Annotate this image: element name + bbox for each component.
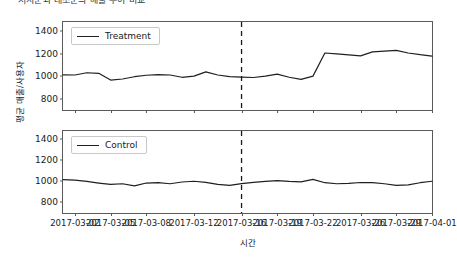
subplot-control: Control 8001000120014002017-03-022017-03… <box>62 130 433 214</box>
legend-line-swatch-treatment <box>77 36 99 37</box>
y-tick-mark <box>60 202 63 203</box>
legend-treatment: Treatment <box>71 27 160 45</box>
x-tick-label: 2017-03-12 <box>169 218 218 228</box>
y-tick-label: 1000 <box>35 176 58 186</box>
x-tick-mark <box>242 213 243 216</box>
y-tick-mark <box>60 31 63 32</box>
y-tick-mark <box>60 139 63 140</box>
data-series-line <box>63 179 432 186</box>
x-tick-mark <box>313 213 314 216</box>
x-tick-mark <box>194 213 195 216</box>
y-tick-mark <box>60 98 63 99</box>
y-tick-mark <box>60 181 63 182</box>
legend-line-swatch-control <box>77 145 99 146</box>
x-tick-mark <box>361 110 362 113</box>
subplot-treatment: Treatment 800100012001400 <box>62 21 433 111</box>
figure-suptitle: 처치군과 대조군의 매출 추이 비교 <box>18 0 145 6</box>
x-tick-label: 2017-04-01 <box>407 218 456 228</box>
legend-label-control: Control <box>105 140 138 150</box>
x-tick-mark <box>146 213 147 216</box>
data-series-line <box>63 50 432 80</box>
x-tick-mark <box>111 110 112 113</box>
x-tick-mark <box>432 213 433 216</box>
x-tick-mark <box>313 110 314 113</box>
x-tick-mark <box>146 110 147 113</box>
y-tick-label: 1200 <box>35 49 58 59</box>
x-tick-mark <box>396 213 397 216</box>
y-tick-mark <box>60 160 63 161</box>
x-tick-mark <box>75 213 76 216</box>
y-tick-mark <box>60 53 63 54</box>
x-tick-mark <box>396 110 397 113</box>
x-tick-mark <box>361 213 362 216</box>
legend-label-treatment: Treatment <box>105 31 151 41</box>
y-tick-label: 1000 <box>35 71 58 81</box>
y-tick-label: 1400 <box>35 134 58 144</box>
y-axis-label: 평균 매출/사용자 <box>13 37 25 147</box>
x-tick-mark <box>242 110 243 113</box>
x-tick-mark <box>75 110 76 113</box>
x-tick-mark <box>277 213 278 216</box>
x-tick-label: 2017-03-22 <box>288 218 337 228</box>
x-tick-label: 2017-03-08 <box>122 218 171 228</box>
x-tick-mark <box>111 213 112 216</box>
legend-control: Control <box>71 136 147 154</box>
y-tick-label: 1400 <box>35 26 58 36</box>
x-tick-mark <box>194 110 195 113</box>
x-tick-mark <box>277 110 278 113</box>
y-tick-label: 800 <box>41 197 58 207</box>
y-tick-label: 800 <box>41 94 58 104</box>
x-tick-mark <box>432 110 433 113</box>
y-tick-label: 1200 <box>35 155 58 165</box>
y-tick-mark <box>60 76 63 77</box>
x-axis-label: 시간 <box>62 236 433 248</box>
